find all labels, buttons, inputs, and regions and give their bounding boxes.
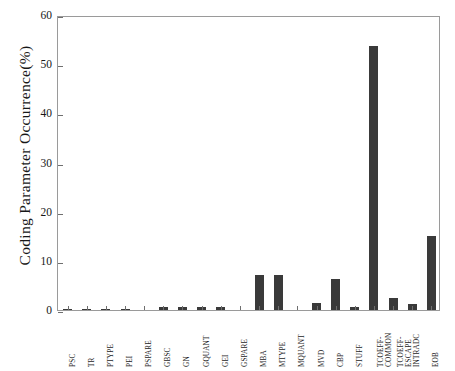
x-tick-mark (393, 306, 394, 310)
bars-layer (58, 17, 439, 310)
x-tick-mark (68, 306, 69, 310)
x-tick-mark (240, 306, 241, 310)
x-tick-mark (163, 306, 164, 310)
x-axis-tick-labels: PSCTRPTYPEPEIPSPAREGBSCGNGQUANTGEIGSPARE… (57, 313, 440, 371)
x-tick-label: PSC (70, 354, 78, 367)
x-tick-mark (106, 306, 107, 310)
bar (274, 275, 283, 310)
x-tick-label: STUFF (357, 344, 365, 367)
x-tick-mark (278, 306, 279, 310)
x-tick-mark (125, 306, 126, 310)
x-tick-label: GBSC (165, 347, 173, 367)
x-tick-mark (431, 306, 432, 310)
x-tick-label: GSPARE (242, 339, 250, 367)
x-tick-label: MQUANT (299, 334, 307, 367)
x-tick-label: MVD (319, 350, 327, 367)
y-tick-label: 10 (28, 256, 52, 268)
x-tick-label: TCOEFF-ESCAPE (398, 336, 413, 367)
y-tick-label: 20 (28, 207, 52, 219)
x-tick-label: MTYPE (280, 342, 288, 367)
x-tick-label: INTRADC (414, 334, 422, 367)
x-tick-mark (374, 306, 375, 310)
x-tick-label: MBA (261, 350, 269, 367)
x-tick-label: PSPARE (146, 340, 154, 367)
x-tick-label: EOB (433, 352, 441, 367)
x-tick-label: PTYPE (108, 344, 116, 367)
y-tick-label: 50 (28, 59, 52, 71)
x-tick-mark (182, 306, 183, 310)
x-tick-mark (336, 306, 337, 310)
x-tick-label: CBP (338, 353, 346, 367)
x-tick-mark (297, 306, 298, 310)
y-axis-tick-labels: 0102030405060 (26, 0, 52, 371)
bar (255, 275, 264, 310)
bar (369, 46, 378, 310)
x-tick-label: PEI (127, 356, 135, 367)
bar (427, 236, 436, 310)
y-tick-mark (58, 66, 63, 67)
y-tick-mark (58, 263, 63, 264)
x-tick-label: TCOEFF-COMMON (378, 333, 393, 367)
x-tick-mark (259, 306, 260, 310)
y-tick-mark (58, 214, 63, 215)
chart-figure: Coding Parameter Occurrence(%) 010203040… (0, 0, 455, 371)
plot-area (57, 16, 440, 311)
y-tick-label: 0 (28, 305, 52, 317)
x-tick-label: GN (184, 356, 192, 367)
x-tick-mark (87, 306, 88, 310)
x-tick-label: GQUANT (204, 335, 212, 367)
x-tick-mark (202, 306, 203, 310)
x-tick-mark (221, 306, 222, 310)
y-tick-label: 40 (28, 108, 52, 120)
y-tick-label: 30 (28, 158, 52, 170)
y-tick-mark (58, 115, 63, 116)
x-tick-label: TR (89, 357, 97, 367)
x-tick-label: GEI (223, 354, 231, 367)
y-tick-label: 60 (28, 10, 52, 22)
y-tick-mark (58, 17, 63, 18)
x-tick-mark (355, 306, 356, 310)
x-tick-mark (144, 306, 145, 310)
x-tick-mark (317, 306, 318, 310)
y-tick-mark (58, 165, 63, 166)
x-tick-mark (412, 306, 413, 310)
